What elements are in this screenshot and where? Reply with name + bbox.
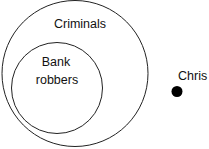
bank-robbers-label-line2: robbers <box>36 73 78 87</box>
bank-robbers-label-line1: Bank <box>42 55 71 69</box>
chris-point <box>172 86 183 97</box>
euler-diagram: Criminals Bank robbers Chris <box>0 0 209 149</box>
criminals-label: Criminals <box>54 17 106 31</box>
chris-label: Chris <box>178 69 207 83</box>
